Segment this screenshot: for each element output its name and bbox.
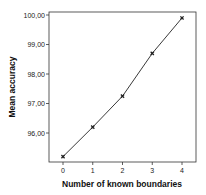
plot-frame — [49, 12, 196, 162]
y-tick-label: 98,00 — [27, 71, 45, 78]
x-tick-label: 0 — [61, 167, 65, 174]
x-tick-label: 2 — [121, 167, 125, 174]
y-tick-label: 99,00 — [27, 41, 45, 48]
x-tick-label: 1 — [91, 167, 95, 174]
x-tick-label: 3 — [150, 167, 154, 174]
line-chart: 96,0097,0098,0099,00100,00 01234 Number … — [0, 0, 206, 195]
y-axis-title: Mean accuracy — [7, 56, 17, 117]
y-tick-label: 100,00 — [24, 12, 46, 19]
x-axis-title: Number of known boundaries — [62, 179, 182, 189]
y-tick-label: 97,00 — [27, 100, 45, 107]
x-axis: 01234 — [61, 162, 184, 174]
y-tick-label: 96,00 — [27, 130, 45, 137]
x-tick-label: 4 — [180, 167, 184, 174]
y-axis: 96,0097,0098,0099,00100,00 — [24, 12, 49, 137]
